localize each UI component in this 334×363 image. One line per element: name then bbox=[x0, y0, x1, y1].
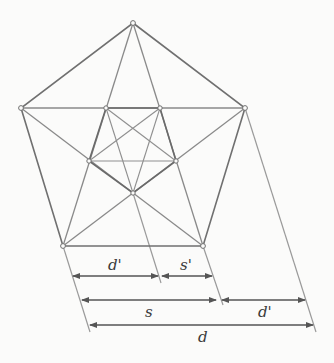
projection-lines bbox=[63, 108, 316, 332]
vertex-bottom-left bbox=[61, 244, 66, 249]
vertex-inner-top-left bbox=[104, 106, 108, 110]
label-d-row3: d bbox=[198, 330, 208, 345]
outer-diagonals bbox=[21, 23, 245, 246]
projection-line-bottom-left bbox=[63, 246, 90, 332]
pentagon-golden-ratio-diagram: d' s' s d' d bbox=[0, 0, 334, 363]
projection-line-right bbox=[245, 108, 316, 332]
label-d-prime-row2: d' bbox=[258, 305, 272, 320]
vertex-inner-right bbox=[174, 159, 178, 163]
vertex-inner-top-right bbox=[158, 106, 162, 110]
vertex-inner-left bbox=[87, 159, 91, 163]
outer-pentagon bbox=[21, 23, 245, 246]
vertex-bottom-right bbox=[201, 244, 206, 249]
label-s-prime-row1: s' bbox=[180, 258, 192, 273]
projection-line-inner-bottom bbox=[133, 193, 161, 283]
label-d-prime-row1: d' bbox=[108, 258, 122, 273]
vertex-right bbox=[243, 106, 248, 111]
vertex-top bbox=[131, 21, 136, 26]
vertex-inner-bottom bbox=[131, 191, 135, 195]
diagram-svg bbox=[0, 0, 334, 363]
vertex-left bbox=[19, 106, 24, 111]
label-s-row2: s bbox=[145, 305, 153, 320]
dimension-lines bbox=[73, 276, 313, 325]
